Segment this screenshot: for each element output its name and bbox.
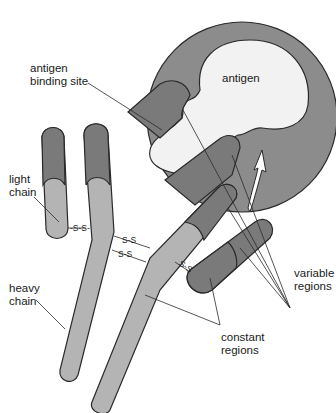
antigen-label: antigen (222, 72, 260, 85)
constant-regions-label-line1: constant (221, 331, 264, 344)
antigen-binding-site-label-line1: antigen (30, 62, 68, 75)
variable-regions-label-line2: regions (294, 280, 332, 293)
light-chain-left (42, 128, 68, 239)
disulfide-bond-3: S-S (118, 249, 133, 259)
heavy-chain-left (60, 124, 114, 382)
variable-regions-label-line1: variable (294, 267, 334, 280)
light-chain-label-line1: light (9, 173, 30, 186)
heavy-chain-label-line2: chain (9, 295, 37, 308)
disulfide-bond-1: -S-S- (70, 223, 90, 233)
light-chain-label-line2: chain (9, 186, 37, 199)
antibody-diagram: -S-S- S-S S-S S-S antigen antigen bindin… (0, 0, 336, 413)
heavy-chain-label-line1: heavy (9, 282, 40, 295)
disulfide-bond-2: S-S (122, 235, 137, 245)
constant-regions-label-line2: regions (221, 344, 259, 357)
antigen-binding-site-label-line2: binding site (30, 75, 88, 88)
